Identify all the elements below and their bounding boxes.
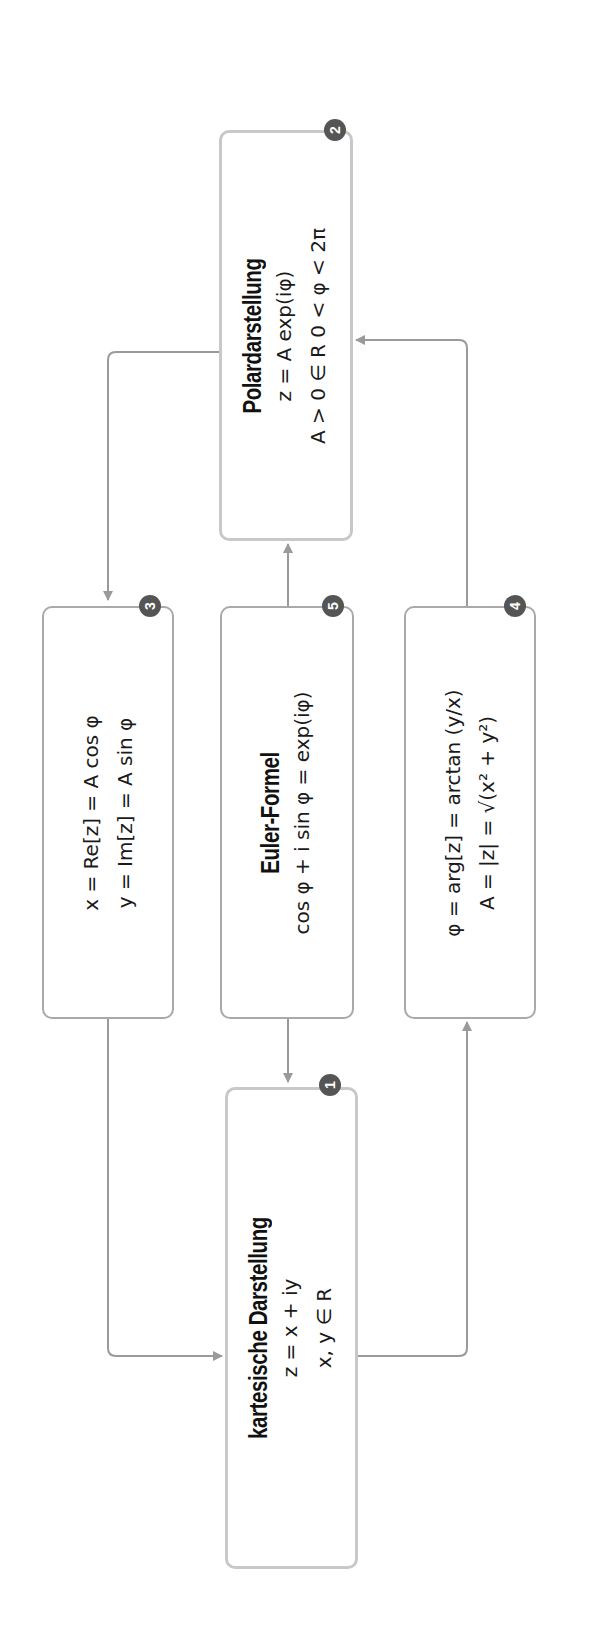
node-real-imag-parts: x = Re[z] = A cos φ y = Im[z] = A sin φ (42, 606, 174, 1019)
edge-4-to-2 (356, 340, 467, 606)
edge-3-to-1 (108, 1018, 222, 1356)
node-kartesische-darstellung: kartesische Darstellung z = x + iy x, y … (225, 1087, 358, 1569)
node-polardarstellung: Polardarstellung z = A exp(iφ) A > 0 ∈ R… (219, 130, 353, 541)
formula-line: x = Re[z] = A cos φ (74, 715, 108, 910)
node-title: Polardarstellung (237, 247, 267, 424)
step-badge-1: 1 (319, 1074, 341, 1096)
node-content: x = Re[z] = A cos φ y = Im[z] = A sin φ (74, 715, 142, 910)
node-euler-formel: Euler-Formel cos φ + i sin φ = exp(iφ) (220, 606, 354, 1019)
formula-line: φ = arg[z] = arctan (y/x) (436, 689, 470, 936)
step-badge-4: 4 (504, 595, 526, 617)
formula-line: A = |z| = √(x² + y²) (470, 689, 504, 936)
formula-line: y = Im[z] = A sin φ (108, 715, 142, 910)
node-content: Euler-Formel cos φ + i sin φ = exp(iφ) (255, 691, 319, 934)
edge-2-to-3 (108, 352, 219, 600)
node-title: Euler-Formel (255, 713, 285, 912)
formula-line: A > 0 ∈ R 0 < φ < 2π (301, 228, 335, 444)
formula-line: cos φ + i sin φ = exp(iφ) (285, 691, 319, 934)
step-badge-2: 2 (324, 119, 346, 141)
node-content: φ = arg[z] = arctan (y/x) A = |z| = √(x²… (436, 689, 504, 936)
formula-line: z = x + iy (273, 1193, 307, 1464)
formula-line: z = A exp(iφ) (267, 228, 301, 444)
node-title: kartesische Darstellung (243, 1217, 273, 1439)
node-content: kartesische Darstellung z = x + iy x, y … (243, 1193, 341, 1464)
edge-1-to-4 (357, 1022, 467, 1356)
node-content: Polardarstellung z = A exp(iφ) A > 0 ∈ R… (237, 228, 335, 444)
step-badge-3: 3 (139, 595, 161, 617)
formula-line: x, y ∈ R (307, 1193, 341, 1464)
step-badge-5: 5 (322, 595, 344, 617)
node-argument-modulus: φ = arg[z] = arctan (y/x) A = |z| = √(x²… (404, 606, 536, 1019)
